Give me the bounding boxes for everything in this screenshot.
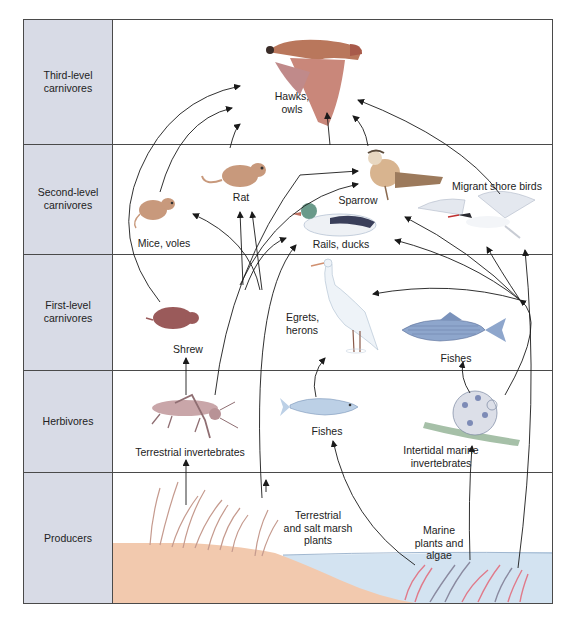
label-rat: Rat xyxy=(226,191,256,204)
arrow-plants-to-rails xyxy=(260,245,296,498)
arrow-shrew-to-hawks xyxy=(129,86,240,302)
label-shrew: Shrew xyxy=(170,343,206,356)
arrow-mice-to-hawks xyxy=(160,108,232,192)
label-migrant-shore-birds: Migrant shore birds xyxy=(444,180,550,193)
label-terrestrial-salt-marsh-plants: Terrestrialand salt marshplants xyxy=(280,509,356,547)
arrow-marine-inv-to-shorebirds2 xyxy=(505,300,531,395)
arrow-sparrow2-to-hawks xyxy=(353,116,368,146)
label-rails-ducks: Rails, ducks xyxy=(308,238,374,251)
label-hawks-owls: Hawks,owls xyxy=(268,90,316,115)
label-egrets-herons: Egrets,herons xyxy=(286,311,326,336)
label-marine-plants-algae: Marineplants andalgae xyxy=(412,524,466,562)
label-terrestrial-invertebrates: Terrestrial invertebrates xyxy=(130,446,250,459)
arrow-marine-inv-to-rails xyxy=(395,240,520,300)
arrow-marine-inv-to-shorebirds xyxy=(487,247,520,300)
label-mice-voles: Mice, voles xyxy=(131,237,197,250)
arrow-fish-to-egrets xyxy=(314,358,325,397)
arrow-algae-to-shorebirds xyxy=(518,250,531,568)
label-fishes-herbivore: Fishes xyxy=(307,425,347,438)
arrow-sparrow-to-hawks xyxy=(327,113,330,145)
label-sparrow: Sparrow xyxy=(333,194,383,207)
label-intertidal-marine-invertebrates: Intertidal marineinvertebrates xyxy=(391,444,491,469)
label-fishes-first-level: Fishes xyxy=(436,352,476,365)
arrow-rat-to-hawks xyxy=(230,124,240,148)
arrow-marine-inv-to-egrets xyxy=(373,288,520,300)
arrow-marine-inv-to-fishes xyxy=(462,362,470,393)
